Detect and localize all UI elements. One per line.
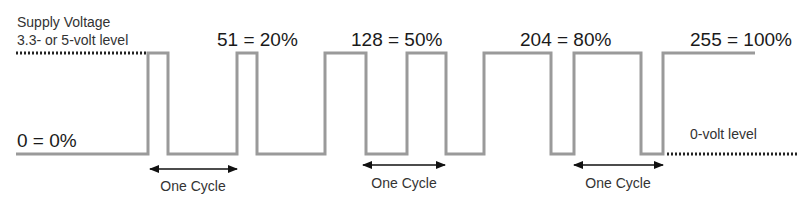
supply-voltage-label: Supply Voltage: [17, 14, 111, 30]
duty-label-20: 51 = 20%: [217, 29, 298, 50]
pwm-waveform: [16, 53, 755, 154]
cycle-label-3: One Cycle: [585, 175, 651, 191]
zero-volt-label: 0-volt level: [690, 126, 757, 142]
duty-label-80: 204 = 80%: [520, 29, 611, 50]
pwm-diagram: Supply Voltage 3.3- or 5-volt level 0 = …: [0, 0, 809, 207]
cycle-label-2: One Cycle: [371, 175, 437, 191]
cycle-label-1: One Cycle: [160, 178, 226, 194]
duty-label-50: 128 = 50%: [351, 29, 442, 50]
duty-label-100: 255 = 100%: [690, 29, 792, 50]
zero-duty-label: 0 = 0%: [17, 130, 77, 151]
supply-level-label: 3.3- or 5-volt level: [17, 32, 128, 48]
